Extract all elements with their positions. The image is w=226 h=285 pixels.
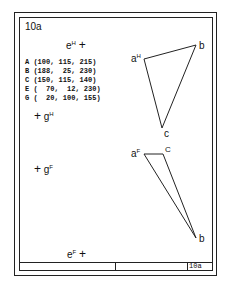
triangle-frontal-view (144, 154, 196, 238)
triangle-drawing (0, 0, 226, 285)
triangle-horizontal-view (144, 45, 196, 128)
